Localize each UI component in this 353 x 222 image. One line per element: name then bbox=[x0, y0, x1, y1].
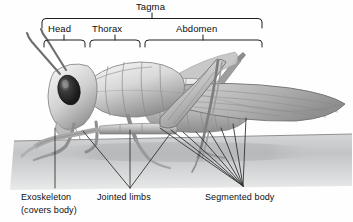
label-segmented-body: Segmented body bbox=[205, 192, 274, 203]
ground-surface bbox=[10, 134, 352, 190]
label-jointed-limbs: Jointed limbs bbox=[97, 192, 151, 203]
label-tagma: Tagma bbox=[136, 1, 165, 12]
antennae bbox=[27, 29, 66, 74]
figure-canvas: Tagma Head Thorax Abdomen Exoskeleton (c… bbox=[0, 0, 353, 222]
label-thorax: Thorax bbox=[92, 23, 122, 34]
label-exoskeleton-sub: (covers body) bbox=[21, 205, 77, 216]
label-head: Head bbox=[48, 23, 71, 34]
label-abdomen: Abdomen bbox=[176, 23, 217, 34]
label-exoskeleton: Exoskeleton bbox=[21, 192, 71, 203]
